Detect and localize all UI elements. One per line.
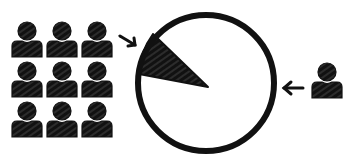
- person-icon: [47, 62, 77, 97]
- person-icon: [12, 22, 42, 57]
- people-group: [12, 22, 112, 137]
- person-icon: [47, 22, 77, 57]
- diagram-canvas: [0, 0, 350, 162]
- person-icon: [47, 102, 77, 137]
- arrow-to-pie-icon: [284, 82, 303, 94]
- person-icon: [82, 62, 112, 97]
- person-icon: [12, 102, 42, 137]
- pie-circle: [138, 15, 274, 151]
- arrow-to-slice-icon: [120, 36, 135, 46]
- person-icon: [82, 102, 112, 137]
- person-icon: [82, 22, 112, 57]
- person-icon: [12, 62, 42, 97]
- single-person-icon: [312, 63, 342, 98]
